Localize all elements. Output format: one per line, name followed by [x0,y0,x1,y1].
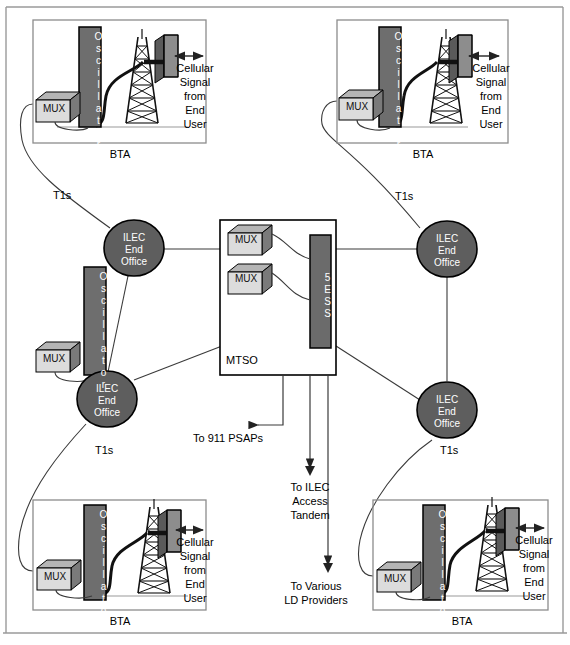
cellular-signal-line-5: User [505,590,563,602]
cellular-signal-line-5: User [166,592,224,604]
ilec-label-line-1: ILEC [82,383,132,395]
cellular-signal-line-4: End [505,576,563,588]
t1s-label-bottom-left: T1s [95,444,113,456]
cellular-signal-line-4: End [166,104,224,116]
mux-label-1: MUX [235,234,257,246]
cellular-signal-line-2: Signal [166,76,224,88]
cellular-signal-line-5: User [166,118,224,130]
mtso-output-trunks [258,376,328,565]
oscillator-label: Oscillator [376,31,404,125]
arrowhead-tandem [305,466,315,476]
dest-ld-line-2: LD Providers [276,594,356,606]
t1s-label-bottom-right: T1s [440,444,458,456]
oscillator-label: Oscillator [81,509,109,598]
mux-label: MUX [43,103,65,115]
ilec-label-line-1: ILEC [109,232,159,244]
bta-caption: BTA [398,148,448,160]
ilec-label-line-2: End [82,395,132,407]
bta-caption: BTA [95,148,145,160]
ilec-label-line-1: ILEC [422,394,472,406]
dest-tandem-line-1: To ILEC [281,481,339,493]
bta-caption: BTA [437,615,487,627]
arrowhead-ld [323,563,333,573]
ilec-label-line-3: Office [109,256,159,268]
diagram-canvas: Oscillator MUX Cellular Signal from End … [0,0,570,645]
t1s-label-top-right: T1s [395,190,413,202]
bta-caption: BTA [95,615,145,627]
dest-tandem-line-2: Access [281,495,339,507]
oscillator-label: Oscillator [81,271,109,371]
cellular-signal-line-3: from [462,90,520,102]
mux-label: MUX [384,573,406,585]
mtso-caption: MTSO [226,354,258,366]
cellular-signal-line-1: Cellular [166,62,224,74]
ilec-label-line-2: End [109,244,159,256]
mux-label-2: MUX [235,273,257,285]
ilec-label-line-3: Office [422,418,472,430]
cellular-signal-line-4: End [462,104,520,116]
cellular-signal-line-1: Cellular [462,62,520,74]
mux-label: MUX [346,101,368,113]
dest-tandem-line-3: Tandem [281,509,339,521]
trunk-to-911 [258,376,283,425]
oscillator-label: Oscillator [420,509,448,598]
cellular-signal-line-2: Signal [166,550,224,562]
cellular-signal-line-2: Signal [505,548,563,560]
cellular-signal-line-3: from [166,90,224,102]
cellular-signal-line-5: User [462,118,520,130]
cellular-signal-line-2: Signal [462,76,520,88]
mux-label: MUX [44,571,66,583]
dest-911-label: To 911 PSAPs [193,432,263,444]
t1s-label-top-left: T1s [53,189,71,201]
ilec-label-line-1: ILEC [422,233,472,245]
cellular-signal-line-3: from [505,562,563,574]
mux-label: MUX [43,353,65,365]
tower-icon [126,29,158,123]
ilec-label-line-3: Office [82,407,132,419]
cellular-signal-line-1: Cellular [166,536,224,548]
switch-5ess-label: 5ESS [307,272,333,316]
dest-ld-line-1: To Various [276,580,356,592]
ilec-label-line-2: End [422,406,472,418]
oscillator-label: Oscillator [76,31,104,125]
cellular-signal-line-4: End [166,578,224,590]
cellular-signal-line-1: Cellular [505,534,563,546]
ilec-label-line-2: End [422,245,472,257]
ilec-label-line-3: Office [422,257,472,269]
cellular-signal-line-3: from [166,564,224,576]
